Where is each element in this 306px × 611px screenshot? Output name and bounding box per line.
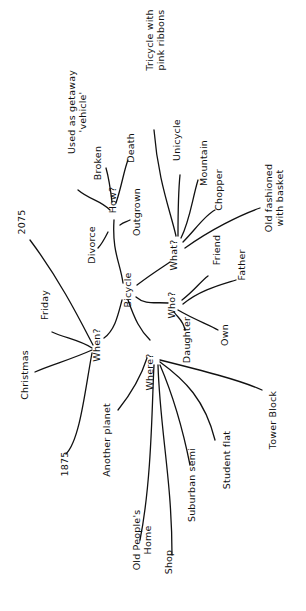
node-used-as-getaway-line: Used as getaway	[66, 70, 77, 154]
node-what: What?	[168, 239, 179, 270]
leaf-christmas-connector	[35, 350, 92, 372]
node-tricycle: Tricycle withpink ribbons	[144, 9, 166, 71]
node-tricycle-line: Tricycle with	[144, 9, 155, 71]
node-mountain: Mountain	[198, 140, 209, 186]
node-broken: Broken	[92, 146, 103, 180]
leaf-used-as-getaway-connector	[78, 190, 110, 210]
leaf-unicycle-connector	[178, 175, 180, 236]
node-year-1875: 1875	[59, 452, 70, 477]
branch-what-connector	[137, 262, 170, 285]
node-tower-block: Tower Block	[267, 390, 278, 450]
node-christmas: Christmas	[19, 350, 30, 400]
branch-who-connector	[136, 297, 168, 303]
node-used-as-getaway-line: 'vehicle'	[77, 92, 88, 133]
leaf-tower-block-connector	[160, 360, 262, 390]
node-shop: Shop	[163, 550, 174, 575]
node-another-planet: Another planet	[101, 403, 112, 477]
leaf-mountain-connector	[181, 180, 198, 238]
node-unicycle: Unicycle	[171, 119, 182, 161]
node-death: Death	[125, 133, 136, 163]
node-old-peoples-home-line: Old People's	[131, 510, 142, 571]
node-friend: Friend	[211, 235, 222, 265]
node-daughter: Daughter	[181, 317, 192, 363]
branch-when-connector	[104, 300, 122, 338]
mind-map-labels: BicycleHow?Used as getaway'vehicle'Broke…	[16, 9, 285, 574]
node-how: How?	[107, 187, 118, 214]
node-old-peoples-home: Old People'sHome	[131, 510, 153, 571]
node-who: Who?	[166, 291, 177, 318]
node-father: Father	[236, 249, 247, 280]
leaf-student-flat-connector	[160, 362, 215, 440]
node-old-peoples-home-line: Home	[142, 526, 153, 555]
leaf-divorce-connector	[98, 232, 108, 248]
leaf-shop-connector	[158, 365, 172, 555]
node-where: Where?	[144, 353, 155, 390]
leaf-another-planet-connector	[118, 358, 147, 410]
node-year-2075: 2075	[16, 210, 27, 235]
mind-map-canvas: BicycleHow?Used as getaway'vehicle'Broke…	[0, 0, 306, 611]
node-bicycle: Bicycle	[122, 272, 133, 307]
node-own: Own	[219, 324, 230, 346]
node-divorce: Divorce	[86, 226, 97, 264]
node-old-fashioned: Old fashionedwith basket	[263, 164, 285, 232]
leaf-year-1875-connector	[66, 353, 92, 454]
node-when: When?	[91, 328, 102, 361]
leaf-friday-connector	[52, 332, 92, 348]
leaf-outgrown-connector	[120, 220, 130, 225]
node-friday: Friday	[39, 290, 50, 320]
node-outgrown: Outgrown	[131, 188, 142, 236]
node-chopper: Chopper	[213, 169, 224, 211]
node-used-as-getaway: Used as getaway'vehicle'	[66, 70, 88, 154]
node-suburban-semi: Suburban semi	[186, 448, 197, 522]
node-old-fashioned-line: Old fashioned	[263, 164, 274, 232]
node-student-flat: Student flat	[221, 431, 232, 489]
node-tricycle-line: pink ribbons	[155, 9, 166, 70]
node-old-fashioned-line: with basket	[274, 169, 285, 226]
